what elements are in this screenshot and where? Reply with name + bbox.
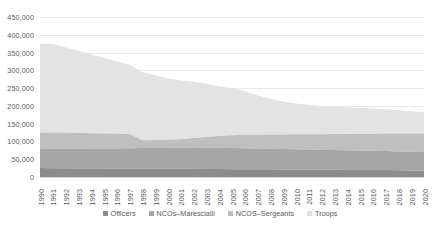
y-tick-label: 100,000 [7, 137, 34, 146]
x-tick-label: 1992 [62, 189, 71, 205]
x-tick-label: 2011 [305, 189, 314, 205]
x-tick-label: 2015 [357, 189, 366, 205]
legend-item[interactable]: NCOS–Sergeants [228, 209, 294, 218]
x-tick-label: 1994 [88, 189, 97, 205]
x-tick-label: 2016 [369, 189, 378, 205]
x-tick-label: 1991 [49, 189, 58, 205]
legend-label: Troops [315, 209, 337, 218]
chart-legend: OfficersNCOs–MarescialliNCOS–SergeantsTr… [0, 206, 440, 220]
y-tick-label: 450,000 [7, 13, 34, 22]
area-series-group [40, 17, 424, 177]
x-tick-label: 1997 [126, 189, 135, 205]
x-tick-label: 2013 [331, 189, 340, 205]
x-tick-label: 2001 [177, 189, 186, 205]
x-tick-label: 2008 [267, 189, 276, 205]
plot-area [40, 17, 424, 177]
stacked-area-chart: 050,000100,000150,000200,000250,000300,0… [0, 0, 440, 227]
legend-item[interactable]: NCOs–Marescialli [149, 209, 215, 218]
x-tick-label: 2009 [280, 189, 289, 205]
y-tick-label: 250,000 [7, 84, 34, 93]
legend-label: Officers [111, 209, 136, 218]
legend-swatch-icon [228, 211, 233, 216]
x-tick-label: 2000 [165, 189, 174, 205]
y-tick-label: 200,000 [7, 101, 34, 110]
legend-label: NCOs–Marescialli [157, 209, 215, 218]
y-tick-label: 150,000 [7, 119, 34, 128]
x-tick-label: 2019 [408, 189, 417, 205]
x-tick-label: 2007 [254, 189, 263, 205]
x-tick-label: 2002 [190, 189, 199, 205]
legend-swatch-icon [307, 211, 312, 216]
x-tick-label: 2012 [318, 189, 327, 205]
y-tick-label: 0 [30, 173, 34, 182]
x-tick-label: 2006 [241, 189, 250, 205]
y-tick-label: 300,000 [7, 66, 34, 75]
x-tick-label: 2005 [229, 189, 238, 205]
x-tick-label: 2017 [382, 189, 391, 205]
area-series [40, 147, 424, 170]
legend-item[interactable]: Officers [103, 209, 136, 218]
legend-item[interactable]: Troops [307, 209, 337, 218]
area-series [40, 44, 424, 141]
x-tick-label: 1998 [139, 189, 148, 205]
x-tick-label: 1996 [113, 189, 122, 205]
legend-label: NCOS–Sergeants [236, 209, 294, 218]
y-axis: 050,000100,000150,000200,000250,000300,0… [0, 0, 38, 227]
x-tick-label: 2004 [216, 189, 225, 205]
x-tick-label: 2014 [344, 189, 353, 205]
x-tick-label: 1990 [37, 189, 46, 205]
x-tick-label: 1995 [101, 189, 110, 205]
x-tick-label: 2003 [203, 189, 212, 205]
legend-swatch-icon [103, 211, 108, 216]
x-tick-label: 2018 [395, 189, 404, 205]
y-tick-label: 400,000 [7, 30, 34, 39]
x-tick-label: 1999 [152, 189, 161, 205]
y-tick-label: 50,000 [11, 155, 34, 164]
y-tick-label: 350,000 [7, 48, 34, 57]
x-tick-label: 2010 [293, 189, 302, 205]
legend-swatch-icon [149, 211, 154, 216]
x-tick-label: 2020 [421, 189, 430, 205]
x-axis: 1990199119921993199419951996199719981999… [40, 179, 424, 205]
gridline [40, 177, 424, 178]
x-tick-label: 1993 [75, 189, 84, 205]
